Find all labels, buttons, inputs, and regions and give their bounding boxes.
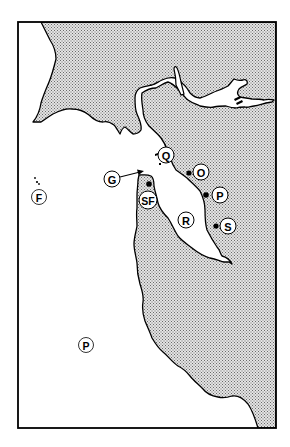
label-g: G: [104, 171, 120, 187]
label-f: F: [32, 190, 47, 205]
bay-area-map: Q O P S R SF G F P: [0, 0, 290, 447]
label-f-text: F: [36, 192, 43, 204]
label-q: Q: [158, 147, 174, 163]
label-s: S: [220, 218, 236, 234]
label-o: O: [193, 164, 209, 180]
label-o-text: O: [197, 167, 206, 179]
label-r: R: [178, 212, 194, 228]
label-g-text: G: [108, 174, 117, 186]
location-dot-p: [203, 192, 209, 198]
farallon-islands: [34, 177, 40, 185]
label-p-ocean-text: P: [82, 340, 89, 352]
location-dot-o: [186, 170, 191, 175]
label-sf-text: SF: [141, 195, 155, 207]
label-s-text: S: [224, 221, 231, 233]
label-sf: SF: [139, 191, 157, 209]
label-p-east-text: P: [216, 190, 223, 202]
location-dot-sf: [146, 181, 152, 187]
label-p-east: P: [212, 187, 228, 203]
label-q-text: Q: [162, 150, 171, 162]
land-mass: [33, 22, 276, 428]
label-r-text: R: [182, 215, 190, 227]
location-dot-s: [213, 223, 218, 228]
label-p-ocean: P: [79, 338, 94, 353]
